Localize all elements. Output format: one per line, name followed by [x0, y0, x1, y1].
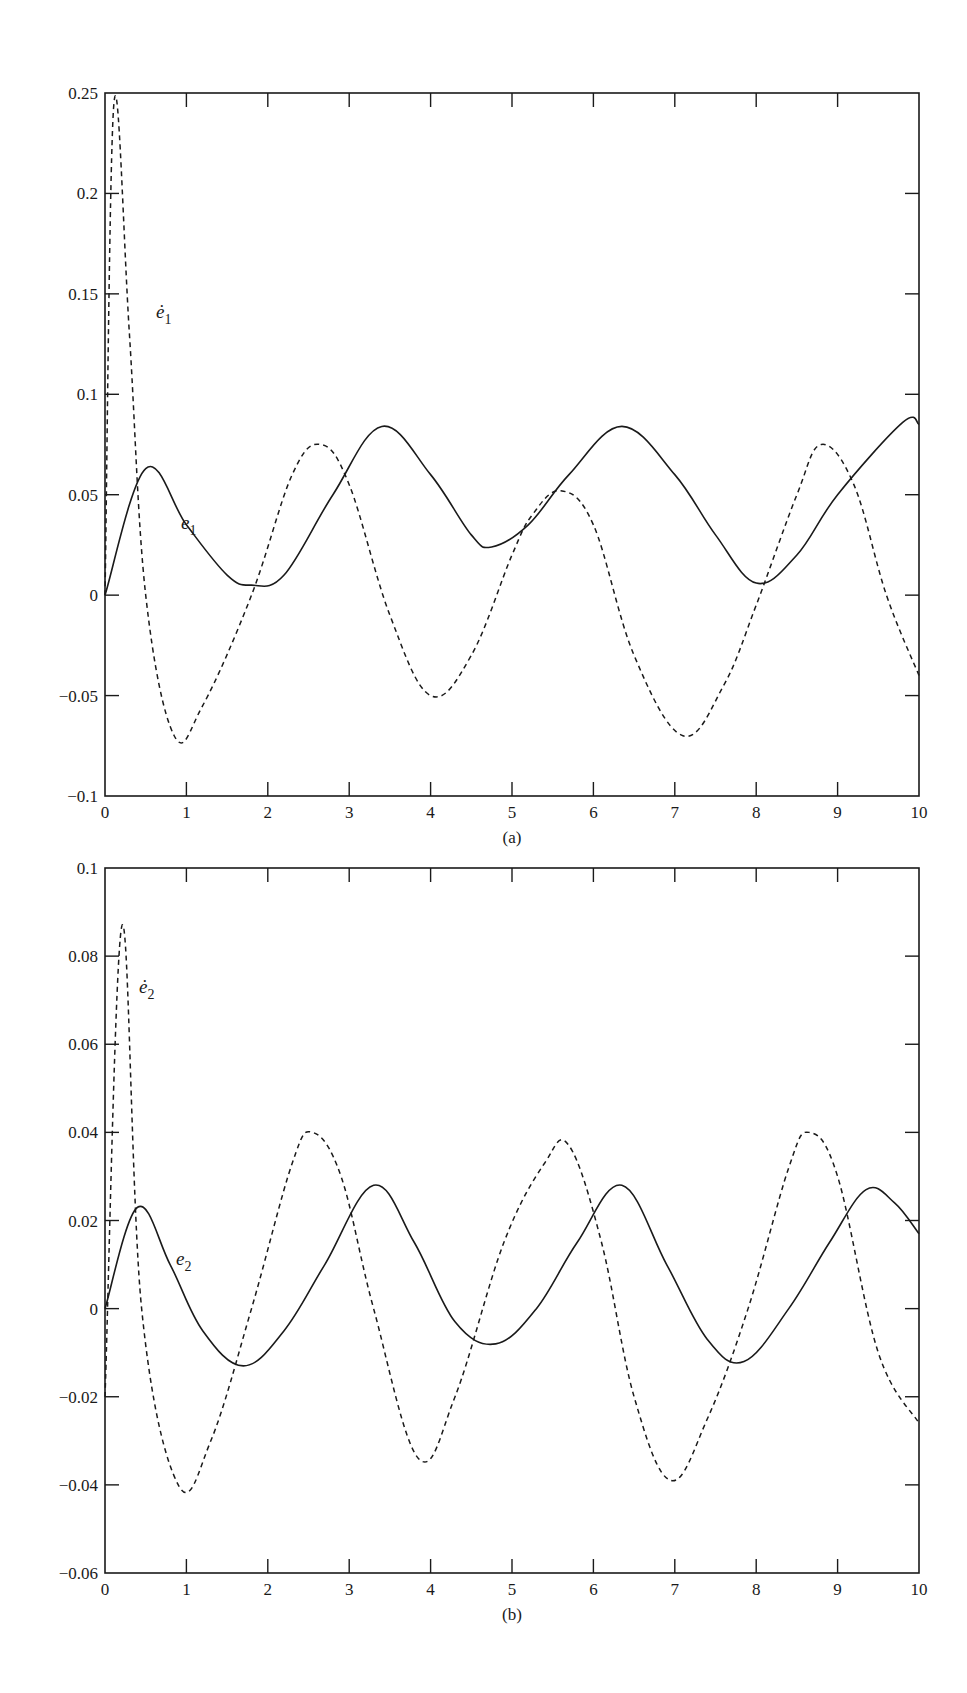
y-axis-ticks-b: −0.06−0.04−0.0200.020.040.060.080.1 [59, 859, 919, 1583]
y-tick-label: 0.06 [68, 1035, 98, 1054]
y-tick-label: −0.05 [59, 687, 98, 706]
y-tick-label: 0.05 [68, 486, 98, 505]
y-tick-label: 0.15 [68, 285, 98, 304]
series-group-b [105, 925, 919, 1493]
series-group-a [105, 96, 919, 743]
x-tick-label: 9 [833, 1580, 842, 1599]
x-tick-label: 2 [264, 1580, 273, 1599]
series-e1-line [105, 417, 919, 595]
x-tick-label: 3 [345, 803, 354, 822]
x-tick-label: 5 [508, 803, 517, 822]
y-tick-label: −0.1 [67, 787, 98, 806]
y-tick-label: 0.04 [68, 1123, 98, 1142]
x-tick-label: 1 [182, 1580, 191, 1599]
x-tick-label: 5 [508, 1580, 517, 1599]
caption-a: (a) [503, 828, 522, 847]
x-tick-label: 7 [671, 1580, 680, 1599]
x-tick-label: 3 [345, 1580, 354, 1599]
y-tick-label: 0.08 [68, 947, 98, 966]
x-tick-label: 4 [426, 803, 435, 822]
x-axis-ticks-a: 012345678910 [101, 93, 928, 822]
y-tick-label: 0.25 [68, 84, 98, 103]
chart-panel-a: 012345678910 −0.1−0.0500.050.10.150.20.2… [59, 84, 928, 847]
x-tick-label: 4 [426, 1580, 435, 1599]
plot-frame-b [105, 868, 919, 1573]
x-tick-label: 8 [752, 1580, 761, 1599]
x-tick-label: 7 [671, 803, 680, 822]
y-tick-label: 0.1 [77, 385, 98, 404]
y-tick-label: −0.06 [59, 1564, 98, 1583]
y-tick-label: 0 [90, 1300, 99, 1319]
chart-panel-b: 012345678910 −0.06−0.04−0.0200.020.040.0… [59, 859, 928, 1624]
x-tick-label: 10 [911, 803, 928, 822]
y-axis-ticks-a: −0.1−0.0500.050.10.150.20.25 [59, 84, 919, 806]
x-axis-ticks-b: 012345678910 [101, 868, 928, 1599]
curve-label-e2: e2 [176, 1248, 191, 1274]
y-tick-label: −0.02 [59, 1388, 98, 1407]
y-tick-label: −0.04 [59, 1476, 99, 1495]
curve-label-e1: e1 [181, 512, 196, 538]
x-tick-label: 6 [589, 803, 598, 822]
x-tick-label: 0 [101, 803, 110, 822]
x-tick-label: 9 [833, 803, 842, 822]
y-tick-label: 0.02 [68, 1212, 98, 1231]
series-e2-dot-line [105, 925, 919, 1493]
x-tick-label: 0 [101, 1580, 110, 1599]
x-tick-label: 8 [752, 803, 761, 822]
curve-label-e1-dot: ė1 [156, 301, 171, 327]
y-tick-label: 0.2 [77, 184, 98, 203]
plot-frame-a [105, 93, 919, 796]
y-tick-label: 0 [90, 586, 99, 605]
series-e2-line [105, 1185, 919, 1366]
x-tick-label: 10 [911, 1580, 928, 1599]
series-e1-dot-line [105, 96, 919, 743]
caption-b: (b) [502, 1605, 522, 1624]
curve-label-e2-dot: ė2 [139, 976, 154, 1002]
y-tick-label: 0.1 [77, 859, 98, 878]
x-tick-label: 1 [182, 803, 191, 822]
figure: 012345678910 −0.1−0.0500.050.10.150.20.2… [0, 0, 967, 1693]
x-tick-label: 2 [264, 803, 273, 822]
x-tick-label: 6 [589, 1580, 598, 1599]
